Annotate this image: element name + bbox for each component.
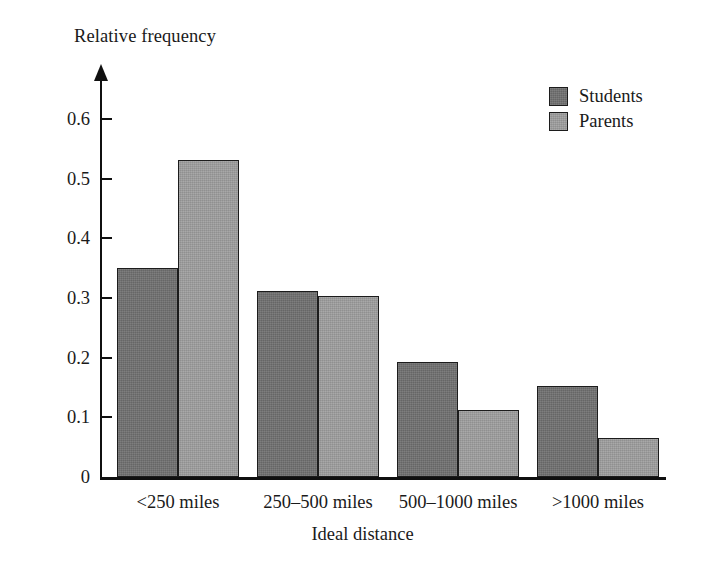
x-axis-title-text: Ideal distance bbox=[311, 524, 413, 545]
y-axis-tick bbox=[101, 237, 112, 239]
bar-chart: Relative frequency 00.10.20.30.40.50.6 <… bbox=[0, 0, 701, 575]
y-axis-tick bbox=[101, 297, 112, 299]
legend-swatch-parents-icon bbox=[549, 112, 568, 131]
bar-parents-3 bbox=[598, 438, 659, 477]
legend-item-students: Students bbox=[549, 84, 643, 109]
y-axis-tick bbox=[101, 416, 112, 418]
bar-parents-0 bbox=[178, 160, 239, 477]
y-axis-title: Relative frequency bbox=[74, 26, 216, 47]
y-axis-tick-label: 0.5 bbox=[34, 170, 90, 189]
legend: Students Parents bbox=[549, 84, 643, 134]
bar-students-2 bbox=[397, 362, 458, 477]
y-axis-tick-label: 0 bbox=[34, 468, 90, 487]
legend-label-parents: Parents bbox=[579, 112, 633, 131]
y-axis-tick-label: 0.1 bbox=[34, 408, 90, 427]
legend-swatch-students-icon bbox=[549, 87, 568, 106]
bar-parents-2 bbox=[458, 410, 519, 477]
y-axis-tick bbox=[101, 357, 112, 359]
y-axis-tick-label: 0.3 bbox=[34, 289, 90, 308]
y-axis-tick-label: 0.4 bbox=[34, 229, 90, 248]
x-axis-category-label: >1000 miles bbox=[498, 492, 698, 513]
bar-students-3 bbox=[537, 386, 598, 477]
bar-parents-1 bbox=[318, 296, 379, 477]
y-axis-tick bbox=[101, 118, 112, 120]
bar-students-1 bbox=[257, 291, 318, 477]
y-axis-tick-label: 0.2 bbox=[34, 349, 90, 368]
x-axis-line bbox=[100, 477, 666, 480]
bar-students-0 bbox=[117, 268, 178, 477]
legend-item-parents: Parents bbox=[549, 109, 643, 134]
x-axis-title: Ideal distance bbox=[0, 524, 701, 545]
legend-label-students: Students bbox=[579, 87, 643, 106]
y-axis-tick-label: 0.6 bbox=[34, 110, 90, 129]
y-axis-tick bbox=[101, 178, 112, 180]
